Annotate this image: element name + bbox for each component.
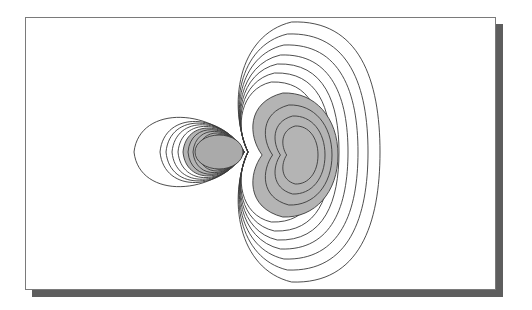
large-lobe-contours bbox=[238, 22, 380, 282]
small-lobe-contours bbox=[134, 117, 244, 186]
orbital-contour-plot bbox=[0, 0, 532, 310]
small-lobe-core bbox=[195, 135, 243, 169]
